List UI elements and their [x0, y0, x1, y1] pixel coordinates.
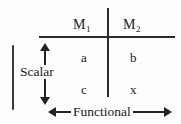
column-header-m1-text: M	[73, 17, 86, 32]
scalar-axis-arrowhead-down-icon	[40, 97, 50, 105]
matrix-cell-x: x	[130, 83, 137, 96]
left-vertical-bar-mark	[12, 45, 14, 110]
matrix-cell-c: c	[81, 83, 87, 96]
functional-axis-label: Functional	[71, 105, 133, 119]
matrix-cell-b: b	[130, 51, 137, 64]
matrix-cell-a: a	[81, 51, 87, 64]
column-header-m1-subscript: 1	[86, 24, 91, 34]
functional-axis-arrowhead-right-icon	[164, 107, 172, 117]
functional-axis-arrowhead-left-icon	[48, 107, 56, 117]
column-header-m2-subscript: 2	[136, 24, 141, 34]
column-header-m2-text: M	[123, 17, 136, 32]
column-header-m1: M1	[73, 18, 90, 32]
scalar-axis-arrowhead-up-icon	[40, 43, 50, 51]
scalar-axis-label: Scalar	[18, 65, 56, 79]
scalar-functional-matrix-figure: M1 M2 a b c x Scalar Functional	[0, 0, 181, 124]
column-vertical-divider	[107, 8, 109, 97]
column-header-m2: M2	[123, 18, 140, 32]
